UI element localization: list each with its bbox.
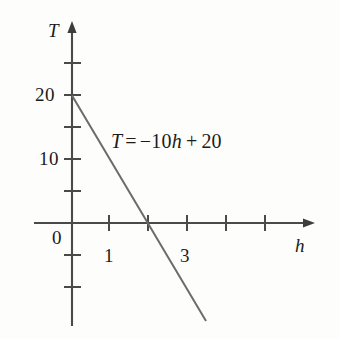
equation-plus: +	[186, 130, 197, 152]
x-tick-label-3: 3	[180, 246, 190, 265]
equation-variable: h	[172, 130, 182, 152]
equation-coefficient: −10	[140, 130, 172, 152]
equation-equals: =	[125, 130, 136, 152]
equation-lhs: T	[111, 130, 122, 152]
y-axis-label: T	[48, 21, 59, 40]
y-axis-arrowhead	[67, 21, 76, 33]
y-tick-label-20: 20	[35, 85, 55, 104]
x-tick-label-1: 1	[104, 246, 114, 265]
y-tick-label-10: 10	[39, 149, 59, 168]
equation-annotation: T=−10h+20	[111, 131, 222, 151]
x-axis-arrowhead	[303, 218, 315, 227]
coordinate-plane-svg	[0, 0, 340, 339]
graph-figure: T h 20 10 0 1 3 T=−10h+20	[0, 0, 340, 339]
x-axis-label: h	[295, 236, 305, 255]
equation-constant: 20	[201, 130, 221, 152]
origin-label: 0	[52, 228, 62, 247]
